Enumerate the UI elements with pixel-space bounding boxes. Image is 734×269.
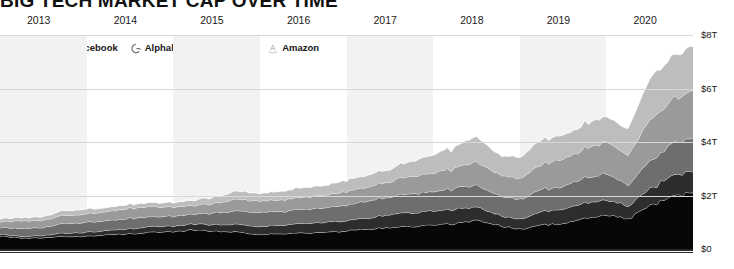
x-axis-line-secondary [0,252,693,253]
gridline-$4T [0,142,693,143]
y-tick-$8T: $8T [701,30,717,40]
x-tick-2018: 2018 [460,14,483,27]
gridline-$6T [0,89,693,90]
y-tick-$2T: $2T [701,191,717,201]
x-axis-line [0,249,693,251]
chart-root: BIG TECH MARKET CAP OVER TIME 2013201420… [0,0,734,269]
gridline-$2T [0,196,693,197]
x-tick-2015: 2015 [200,14,223,27]
y-axis-tick-labels: $0$2T$4T$6T$8T [697,0,734,269]
x-tick-2014: 2014 [114,14,137,27]
x-tick-2016: 2016 [287,14,310,27]
chart-title: BIG TECH MARKET CAP OVER TIME [0,0,338,10]
x-tick-2019: 2019 [547,14,570,27]
y-tick-$6T: $6T [701,84,717,94]
x-tick-2020: 2020 [633,14,656,27]
y-tick-$0: $0 [701,244,712,254]
x-tick-2013: 2013 [27,14,50,27]
x-axis-tick-labels: 20132014201520162017201820192020 [0,14,734,27]
y-tick-$4T: $4T [701,137,717,147]
x-tick-2017: 2017 [374,14,397,27]
gridline-$8T [0,35,693,36]
